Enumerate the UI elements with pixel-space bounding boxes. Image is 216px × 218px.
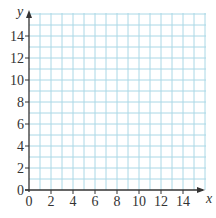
x-tick-label: 4 <box>70 194 77 209</box>
y-tick-label: 2 <box>17 161 24 176</box>
x-axis-arrow-icon <box>197 187 205 193</box>
x-tick-label: 10 <box>132 194 146 209</box>
y-tick-label: 6 <box>17 117 24 132</box>
x-tick-label: 14 <box>176 194 190 209</box>
y-axis-ticks: 02468101214 <box>10 29 29 198</box>
x-tick-label: 2 <box>48 194 55 209</box>
y-tick-label: 4 <box>17 139 24 154</box>
x-tick-label: 8 <box>114 194 121 209</box>
x-axis-label: x <box>205 191 213 206</box>
y-tick-label: 0 <box>17 183 24 198</box>
y-tick-label: 12 <box>10 51 24 66</box>
x-tick-label: 12 <box>154 194 168 209</box>
x-tick-label: 0 <box>26 194 33 209</box>
y-tick-label: 8 <box>17 95 24 110</box>
y-tick-label: 10 <box>10 73 24 88</box>
coordinate-grid: 02468101214 02468101214 x y <box>0 0 216 218</box>
grid-lines <box>29 13 206 190</box>
y-tick-label: 14 <box>10 29 24 44</box>
x-axis-ticks: 02468101214 <box>26 190 191 209</box>
x-tick-label: 6 <box>92 194 99 209</box>
y-axis-label: y <box>15 4 24 19</box>
